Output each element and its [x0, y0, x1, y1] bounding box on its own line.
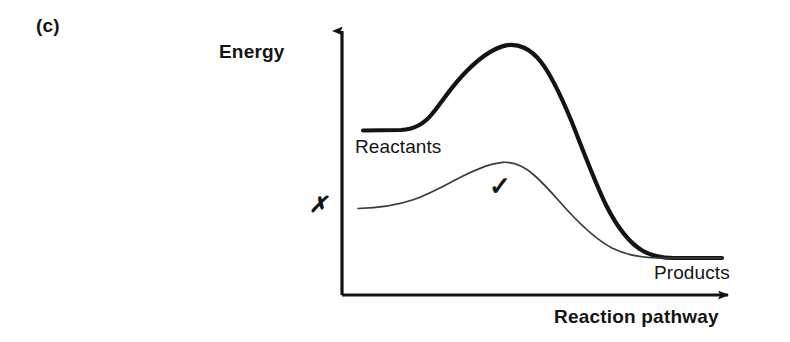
incorrect-mark-icon: ✗ [309, 194, 327, 216]
x-axis-title: Reaction pathway [554, 307, 719, 326]
y-axis-title: Energy [219, 42, 285, 61]
axis-lines [342, 31, 728, 295]
panel-label: (c) [36, 16, 60, 35]
reaction-profile-diagram [0, 0, 790, 342]
reactants-label: Reactants [355, 137, 441, 156]
products-label: Products [654, 263, 730, 282]
figure-canvas: (c) Energy Reaction pathway Reactants Pr… [0, 0, 790, 342]
correct-mark-icon: ✓ [489, 173, 511, 199]
catalysed-pathway-curve [358, 162, 722, 258]
